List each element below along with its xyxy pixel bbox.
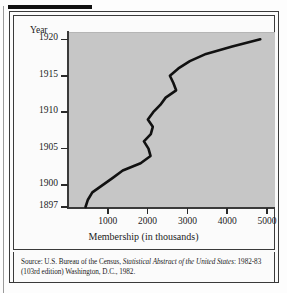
y-tick-label-1900: 1900: [24, 178, 58, 188]
y-tick-1920: [61, 39, 68, 41]
plot-area: [68, 32, 275, 208]
y-tick-1915: [61, 75, 68, 77]
y-tick-1897: [61, 206, 68, 208]
x-tick-label-4000: 4000: [207, 216, 247, 226]
x-tick-5000: [266, 208, 268, 214]
source-prefix: Source: U.S. Bureau of the Census,: [21, 258, 123, 266]
y-tick-label-1897: 1897: [24, 200, 58, 210]
y-tick-label-1905: 1905: [24, 142, 58, 152]
y-tick-1900: [61, 184, 68, 186]
x-axis-title: Membership (in thousands): [0, 231, 287, 242]
y-tick-label-1915: 1915: [24, 69, 58, 79]
x-tick-3000: [187, 208, 189, 214]
x-tick-label-3000: 3000: [167, 216, 207, 226]
source-note-box: Source: U.S. Bureau of the Census, Stati…: [13, 252, 275, 283]
x-axis-line: [67, 207, 275, 209]
y-axis-line: [67, 31, 69, 208]
source-title: Statistical Abstract of the United State…: [123, 258, 234, 266]
page-edge-rule: [3, 6, 4, 293]
y-tick-1905: [61, 148, 68, 150]
top-black-rule: [8, 5, 92, 9]
figure-root: Year 189719001905191019151920 1000200030…: [0, 0, 287, 293]
y-tick-1910: [61, 111, 68, 113]
x-tick-label-1000: 1000: [88, 216, 128, 226]
source-note: Source: U.S. Bureau of the Census, Stati…: [21, 257, 269, 277]
y-tick-label-1910: 1910: [24, 105, 58, 115]
x-tick-2000: [147, 208, 149, 214]
x-tick-4000: [226, 208, 228, 214]
x-tick-label-5000: 5000: [247, 216, 287, 226]
y-tick-label-1920: 1920: [24, 32, 58, 42]
x-tick-label-2000: 2000: [128, 216, 168, 226]
x-tick-1000: [107, 208, 109, 214]
